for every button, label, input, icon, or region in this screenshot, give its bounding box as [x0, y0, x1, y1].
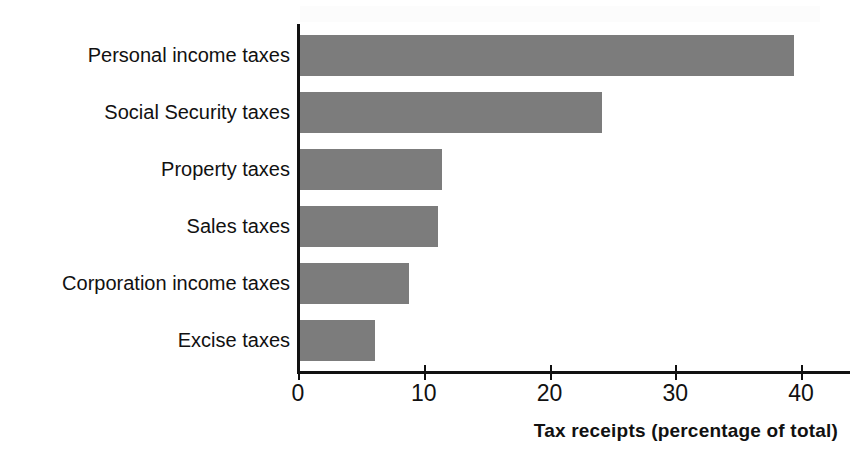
bar-chart: Personal income taxes Social Security ta… [0, 0, 853, 464]
bar-corporation-income-taxes [300, 263, 409, 304]
x-tick-0 [298, 365, 300, 380]
x-tick-10 [424, 365, 426, 380]
x-tick-20 [550, 365, 552, 380]
x-axis-line [297, 371, 850, 374]
x-axis-title: Tax receipts (percentage of total) [0, 420, 838, 442]
x-tick-40 [801, 365, 803, 380]
bar-personal-income-taxes [300, 35, 794, 76]
y-axis-line [297, 24, 300, 374]
x-tick-30 [675, 365, 677, 380]
bar-excise-taxes [300, 320, 375, 361]
x-tick-label-20: 20 [520, 382, 580, 405]
bar-social-security-taxes [300, 92, 602, 133]
category-label-corporation-income-taxes: Corporation income taxes [0, 273, 290, 293]
category-label-property-taxes: Property taxes [0, 159, 290, 179]
x-tick-label-30: 30 [645, 382, 705, 405]
category-label-personal-income-taxes: Personal income taxes [0, 45, 290, 65]
bar-sales-taxes [300, 206, 438, 247]
x-tick-label-40: 40 [771, 382, 831, 405]
category-label-social-security-taxes: Social Security taxes [0, 102, 290, 122]
category-label-sales-taxes: Sales taxes [0, 216, 290, 236]
x-tick-label-10: 10 [394, 382, 454, 405]
scan-bleed-artifact [300, 6, 820, 22]
bar-property-taxes [300, 149, 442, 190]
category-label-excise-taxes: Excise taxes [0, 330, 290, 350]
x-tick-label-0: 0 [268, 382, 328, 405]
